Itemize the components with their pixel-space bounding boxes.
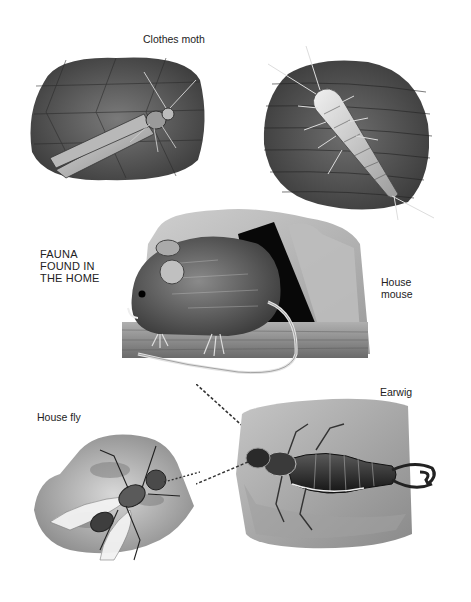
page-title-line-2: FOUND IN	[40, 260, 100, 272]
clothes-moth-illustration	[26, 52, 210, 184]
house-mouse-illustration	[108, 204, 374, 374]
page-title-line-1: FAUNA	[40, 248, 100, 260]
page-title-line-3: THE HOME	[40, 272, 100, 284]
silverfish-illustration	[258, 44, 438, 220]
page-title: FAUNA FOUND IN THE HOME	[40, 248, 100, 284]
clothes-moth-label: Clothes moth	[143, 33, 205, 45]
house-fly-illustration	[30, 410, 200, 570]
house-mouse-label-line-1: House	[381, 276, 413, 288]
house-mouse-label: House mouse	[381, 276, 413, 300]
earwig-illustration	[196, 384, 452, 560]
house-mouse-label-line-2: mouse	[381, 288, 413, 300]
